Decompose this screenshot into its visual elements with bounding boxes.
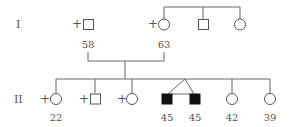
female-circle-icon <box>265 94 276 105</box>
marker-plus: + <box>148 17 158 31</box>
couple-line <box>88 52 164 79</box>
twin-line-left <box>168 79 185 94</box>
individual-II-3: + <box>117 92 138 106</box>
marker-plus: + <box>72 17 82 31</box>
pedigree-diagram: I II + 58 + 63 <box>0 0 290 127</box>
age-label: 42 <box>226 112 239 123</box>
marker-plus: + <box>117 92 127 106</box>
individual-II-4: 45 <box>161 94 174 123</box>
female-circle-icon <box>227 94 238 105</box>
female-circle-icon <box>127 94 138 105</box>
individual-II-6: 42 <box>226 94 239 124</box>
female-circle-icon <box>235 19 246 30</box>
marker-plus: + <box>79 92 89 106</box>
individual-II-1: + 22 <box>40 92 62 123</box>
age-label: 45 <box>161 112 174 123</box>
male-square-icon <box>91 94 101 104</box>
female-circle-icon <box>51 94 62 105</box>
generation-label-II: II <box>14 93 23 106</box>
individual-II-7: 39 <box>264 94 277 124</box>
individual-II-2: + <box>79 92 101 106</box>
age-label: 58 <box>82 39 95 50</box>
female-circle-icon <box>159 19 170 30</box>
age-label: 39 <box>264 112 277 123</box>
male-square-icon <box>84 20 94 30</box>
individual-I-3 <box>199 20 209 30</box>
age-label: 63 <box>158 39 171 50</box>
male-square-icon <box>199 20 209 30</box>
age-label: 45 <box>189 112 202 123</box>
individual-I-1: + 58 <box>72 17 94 50</box>
sibship-line-gen-I <box>164 7 240 19</box>
individual-II-5: 45 <box>189 94 202 123</box>
marker-plus: + <box>40 92 50 106</box>
affected-male-square-icon <box>162 94 172 104</box>
age-label: 22 <box>50 112 63 123</box>
generation-label-I: I <box>16 18 20 31</box>
individual-I-4 <box>235 19 246 30</box>
twin-line-right <box>185 79 194 94</box>
individual-I-2: + 63 <box>148 17 170 50</box>
affected-male-square-icon <box>190 94 200 104</box>
